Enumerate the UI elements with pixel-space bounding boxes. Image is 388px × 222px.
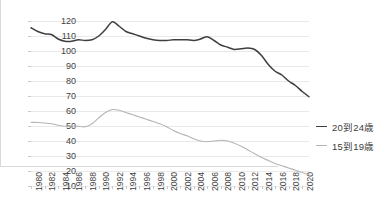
legend-item-1[interactable]: 20到24歳 — [316, 117, 388, 136]
series-line-2 — [31, 109, 309, 174]
legend-line-icon — [316, 126, 327, 128]
legend-item-2[interactable]: 15到19歳 — [316, 136, 388, 155]
chart-legend: 20到24歳15到19歳 — [316, 117, 388, 155]
legend-item-label: 15到19歳 — [332, 139, 374, 153]
series-line-1 — [31, 22, 309, 97]
legend-line-icon — [316, 145, 327, 147]
line-chart: 120110100908070605040302010 198019821984… — [0, 0, 388, 222]
y-axis-line — [0, 0, 1, 166]
series-plot — [31, 21, 309, 187]
legend-item-label: 20到24歳 — [332, 120, 374, 134]
